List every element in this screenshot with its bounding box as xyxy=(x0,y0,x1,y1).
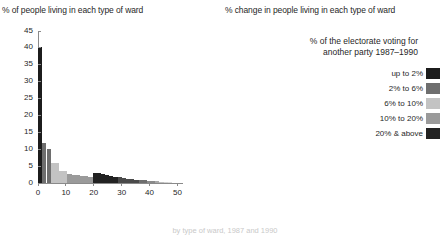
legend-item-label: 20% & above xyxy=(375,129,423,139)
figure-caption: by type of ward, 1987 and 1990 xyxy=(40,226,410,235)
legend-item-label: up to 2% xyxy=(391,69,423,79)
legend: % of the electorate voting for another p… xyxy=(262,36,440,142)
legend-color-swatch xyxy=(426,68,440,79)
x-tick-mark xyxy=(93,183,94,186)
x-tick-mark xyxy=(65,183,66,186)
x-tick-mark xyxy=(38,183,39,186)
y-tick-mark xyxy=(38,31,41,32)
x-tick-mark xyxy=(121,183,122,186)
legend-items: up to 2%2% to 6%6% to 10%10% to 20%20% &… xyxy=(262,67,440,140)
x-axis-left xyxy=(38,183,183,184)
y-tick-label: 35 xyxy=(24,59,33,69)
y-tick-label: 25 xyxy=(24,93,33,103)
x-tick-label: 0 xyxy=(36,188,40,198)
chart-title-left: % of people living in each type of ward xyxy=(2,5,143,15)
y-tick-mark xyxy=(38,149,41,150)
legend-item[interactable]: 2% to 6% xyxy=(262,82,440,95)
y-tick-label: 15 xyxy=(24,127,33,137)
x-tick-label: 50 xyxy=(173,188,182,198)
bars-left xyxy=(38,31,183,183)
legend-color-swatch xyxy=(426,98,440,109)
y-tick-label: 5 xyxy=(29,161,33,171)
chart-panel-left: % of people living in each type of ward … xyxy=(0,0,222,235)
chart-title-right: % change in people living in each type o… xyxy=(225,5,395,15)
legend-item-label: 10% to 20% xyxy=(380,114,423,124)
y-tick-mark xyxy=(38,115,41,116)
x-tick-label: 40 xyxy=(145,188,154,198)
legend-title-line2: another party 1987–1990 xyxy=(262,47,440,58)
x-tick-mark xyxy=(177,183,178,186)
bar xyxy=(168,182,172,183)
legend-color-swatch xyxy=(426,83,440,94)
legend-item[interactable]: 6% to 10% xyxy=(262,97,440,110)
legend-item[interactable]: 20% & above xyxy=(262,127,440,140)
x-tick-mark xyxy=(149,183,150,186)
legend-item[interactable]: up to 2% xyxy=(262,67,440,80)
legend-item-label: 6% to 10% xyxy=(384,99,423,109)
legend-item[interactable]: 10% to 20% xyxy=(262,112,440,125)
y-tick-mark xyxy=(38,98,41,99)
figure-root: % of people living in each type of ward … xyxy=(0,0,444,235)
plot-area-left: 051015202530354045 01020304050 xyxy=(38,31,183,183)
y-tick-label: 10 xyxy=(24,144,33,154)
x-tick-label: 10 xyxy=(61,188,70,198)
legend-color-swatch xyxy=(426,128,440,139)
legend-title-line1: % of the electorate voting for xyxy=(262,36,440,47)
y-tick-label: 40 xyxy=(24,42,33,52)
legend-color-swatch xyxy=(426,113,440,124)
y-tick-mark xyxy=(38,81,41,82)
y-tick-label: 30 xyxy=(24,76,33,86)
y-tick-mark xyxy=(38,47,41,48)
x-tick-label: 30 xyxy=(117,188,126,198)
y-tick-label: 0 xyxy=(29,178,33,188)
y-tick-label: 20 xyxy=(24,110,33,120)
y-tick-mark xyxy=(38,166,41,167)
y-tick-label: 45 xyxy=(24,26,33,36)
y-tick-mark xyxy=(38,132,41,133)
y-tick-mark xyxy=(38,64,41,65)
legend-item-label: 2% to 6% xyxy=(389,84,423,94)
x-tick-label: 20 xyxy=(89,188,98,198)
